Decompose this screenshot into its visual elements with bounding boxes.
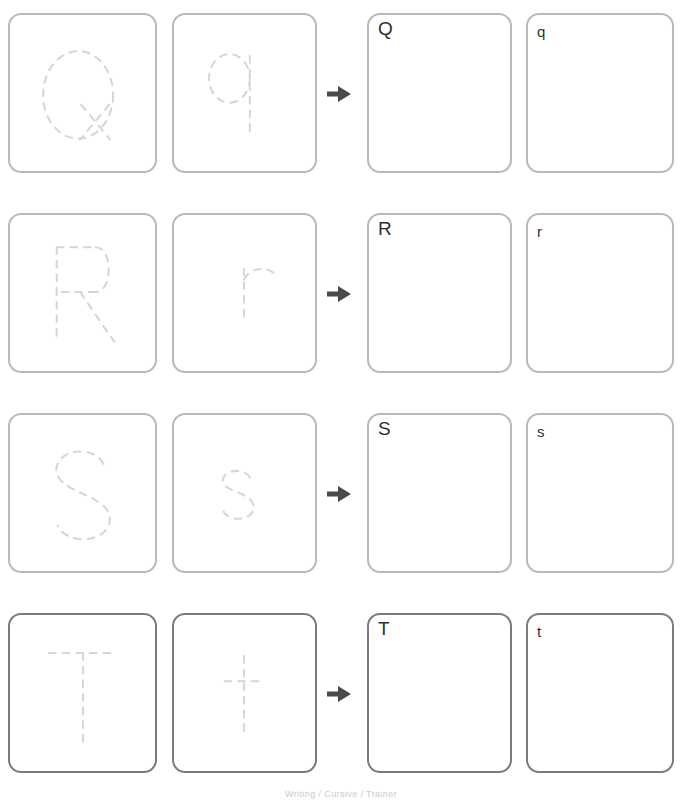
practice-tile-uppercase[interactable]: R (367, 213, 512, 373)
worksheet-footer: Writing / Cursive / Trainer (0, 789, 682, 801)
trace-tile-uppercase[interactable] (8, 13, 157, 173)
practice-cue-uppercase: Q (378, 19, 393, 38)
practice-cue-lowercase: t (537, 624, 541, 639)
practice-cue-uppercase: R (378, 219, 392, 238)
practice-cue-uppercase: T (378, 619, 390, 638)
arrow-right-icon (327, 283, 353, 305)
practice-tile-uppercase[interactable]: T (367, 613, 512, 773)
trace-glyph-Q (10, 15, 155, 171)
trace-glyph-t (174, 615, 315, 771)
arrow-right-icon (327, 483, 353, 505)
practice-tile-uppercase[interactable]: S (367, 413, 512, 573)
trace-glyph-R (10, 215, 155, 371)
trace-tile-lowercase[interactable] (172, 413, 317, 573)
practice-row: S s (0, 413, 682, 578)
practice-cue-lowercase: s (537, 424, 545, 439)
practice-cue-uppercase: S (378, 419, 391, 438)
trace-glyph-s (174, 415, 315, 571)
arrow-right-icon (327, 683, 353, 705)
practice-tile-lowercase[interactable]: s (526, 413, 674, 573)
trace-glyph-q (174, 15, 315, 171)
trace-glyph-S (10, 415, 155, 571)
practice-tile-lowercase[interactable]: q (526, 13, 674, 173)
worksheet-sheet: Q q (0, 0, 682, 801)
practice-row: T t (0, 613, 682, 778)
practice-row: R r (0, 213, 682, 378)
trace-tile-lowercase[interactable] (172, 13, 317, 173)
arrow-right-icon (327, 83, 353, 105)
trace-tile-uppercase[interactable] (8, 413, 157, 573)
practice-tile-lowercase[interactable]: t (526, 613, 674, 773)
practice-row: Q q (0, 13, 682, 178)
practice-tile-lowercase[interactable]: r (526, 213, 674, 373)
trace-tile-uppercase[interactable] (8, 213, 157, 373)
practice-tile-uppercase[interactable]: Q (367, 13, 512, 173)
trace-tile-uppercase[interactable] (8, 613, 157, 773)
trace-glyph-T (10, 615, 155, 771)
trace-tile-lowercase[interactable] (172, 613, 317, 773)
practice-cue-lowercase: q (537, 24, 545, 39)
trace-glyph-r (174, 215, 315, 371)
practice-cue-lowercase: r (537, 224, 542, 239)
trace-tile-lowercase[interactable] (172, 213, 317, 373)
